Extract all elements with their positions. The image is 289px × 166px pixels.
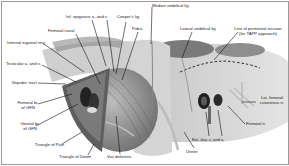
- label-femoral-canal: Femoral canal: [48, 29, 75, 34]
- label-triangle-of-doom: Triangle of Doom: [59, 155, 91, 160]
- figure-frame: Median umbilical lig. Inf. epigastric a.…: [1, 1, 289, 165]
- label-lateral-umbilical-ligament: Lateral umbilical lig.: [180, 27, 217, 32]
- label-peritoneal-incision-line: Line of peritoneal incision (for TAPP ap…: [232, 27, 284, 36]
- label-median-umbilical-ligament: Median umbilical lig.: [152, 4, 190, 9]
- label-iliopubic-tract: Iliopubic tract: [12, 81, 37, 86]
- label-testicular-vessels: Testicular a. and v.: [6, 62, 41, 67]
- label-triangle-of-pain: Triangle of Pain: [35, 143, 64, 148]
- label-line-2: (for TAPP approach): [232, 32, 284, 37]
- label-pubis: Pubis: [132, 27, 142, 32]
- label-femoral-branch-gfn: Femoral br. of GFN: [16, 101, 40, 110]
- label-femoral-nerve: Femoral n.: [246, 122, 266, 127]
- label-coopers-ligament: Cooper's lig.: [117, 15, 140, 20]
- label-inferior-epigastric-vessels: Inf. epigastric a. and v.: [66, 15, 108, 20]
- label-ureter: Ureter: [186, 150, 198, 155]
- label-line-2: of GFN: [18, 127, 42, 132]
- label-line-2: of GFN: [16, 106, 40, 111]
- label-external-iliac-vessels: Ext. iliac v. and a.: [192, 138, 225, 143]
- label-line-2: cutaneous n.: [257, 101, 287, 106]
- label-internal-inguinal-ring: Internal inguinal ring: [7, 41, 45, 46]
- label-genital-branch-gfn: Genital br. of GFN: [18, 122, 42, 131]
- label-lateral-femoral-cutaneous-nerve: Lat. femoral cutaneous n.: [257, 96, 287, 105]
- label-vas-deferens: Vas deferens: [107, 155, 131, 160]
